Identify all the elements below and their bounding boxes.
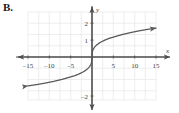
x-tick-label: 10 <box>131 62 139 70</box>
x-axis-label: x <box>165 47 170 55</box>
x-tick-label: 5 <box>112 62 116 70</box>
x-tick-label: –5 <box>66 62 75 70</box>
x-tick-label: –15 <box>22 62 34 70</box>
x-tick-label: –10 <box>43 62 55 70</box>
x-tick-label: 15 <box>153 62 161 70</box>
y-tick-label: –2 <box>80 93 89 101</box>
y-tick-label: 2 <box>85 20 89 28</box>
y-axis-label: y <box>95 6 100 14</box>
figure-panel: B. <box>0 0 179 113</box>
cube-root-graph: x y –15 –10 –5 5 10 15 2 1 <box>0 0 179 113</box>
y-tick-label: 1 <box>85 37 89 45</box>
